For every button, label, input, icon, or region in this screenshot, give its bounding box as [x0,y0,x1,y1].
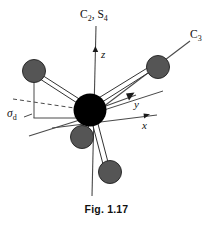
sigma-d-sub: d [13,113,17,122]
z-axis-label: z [100,48,106,60]
ligand-atom-upper-left [23,60,46,83]
ligand-atom-lower-left [71,126,94,149]
central-atom [74,94,107,127]
x-axis-label: x [141,119,147,131]
figure-caption: Fig. 1.17 [0,203,213,215]
ligand-atom-lower-right [99,161,122,184]
c3-axis-sub: 3 [198,34,202,43]
y-axis-label: y [133,98,139,110]
principal-axis-s-sub: 4 [104,14,108,23]
ligand-atom-upper-right [147,56,170,79]
figure-background [0,0,213,227]
figure-container: C2, S4 C3 σd z y x Fig. 1.17 [0,0,213,227]
molecule-diagram: C2, S4 C3 σd z y x [0,0,213,227]
